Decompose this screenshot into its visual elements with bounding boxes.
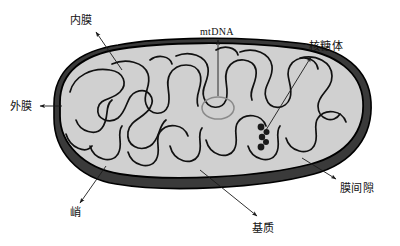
label-ribosome: 核糖体: [309, 39, 343, 52]
inner-membrane-shape: [60, 43, 363, 178]
label-crista: 峭: [70, 206, 81, 218]
mitochondrion-diagram: 内膜 mtDNA 核糖体 外膜 膜间隙 峭 基质: [0, 0, 400, 246]
label-intermembrane-space: 膜间隙: [340, 181, 374, 194]
mitochondrion-diagram-page: 内膜 mtDNA 核糖体 外膜 膜间隙 峭 基质: [0, 0, 400, 246]
label-outer-membrane: 外膜: [10, 100, 33, 112]
label-matrix: 基质: [252, 222, 275, 234]
label-mtdna: mtDNA: [200, 26, 234, 37]
label-inner-membrane: 内膜: [70, 13, 93, 26]
